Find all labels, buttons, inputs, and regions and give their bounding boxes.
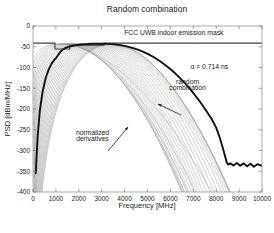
x-tick-label: 0 xyxy=(31,195,35,202)
y-tick-label: -350 xyxy=(17,168,30,175)
x-tick-label: 10000 xyxy=(253,195,271,202)
y-axis-label: PSD [dBm/MHz] xyxy=(3,82,12,137)
y-tick-label: 0 xyxy=(26,22,30,29)
fcc-mask-label: FCC UWB indoor emission mask xyxy=(124,29,224,36)
x-tick-label: 8000 xyxy=(209,195,224,202)
y-tick-label: -400 xyxy=(17,188,30,195)
y-tick-label: -200 xyxy=(17,105,30,112)
chart-svg: Random combination 010002000300040005000… xyxy=(0,0,274,233)
random-combination-label-2: combination xyxy=(169,84,206,91)
x-tick-label: 7000 xyxy=(186,195,201,202)
x-tick-label: 2000 xyxy=(72,195,87,202)
y-tick-label: -150 xyxy=(17,85,30,92)
normalized-derivatives-label-2: derivatives xyxy=(76,135,109,142)
y-tick-label: -250 xyxy=(17,126,30,133)
x-tick-label: 1000 xyxy=(49,195,64,202)
figure-container: Random combination 010002000300040005000… xyxy=(0,0,274,233)
x-tick-label: 3000 xyxy=(94,195,109,202)
y-tick-label: -300 xyxy=(17,147,30,154)
chart-title: Random combination xyxy=(107,4,188,14)
x-tick-label: 9000 xyxy=(232,195,247,202)
y-tick-label: -100 xyxy=(17,64,30,71)
y-tick-label: -50 xyxy=(21,43,31,50)
x-axis-label: Frequency [MHz] xyxy=(118,201,175,210)
alpha-label: α = 0.714 ns xyxy=(190,63,228,70)
